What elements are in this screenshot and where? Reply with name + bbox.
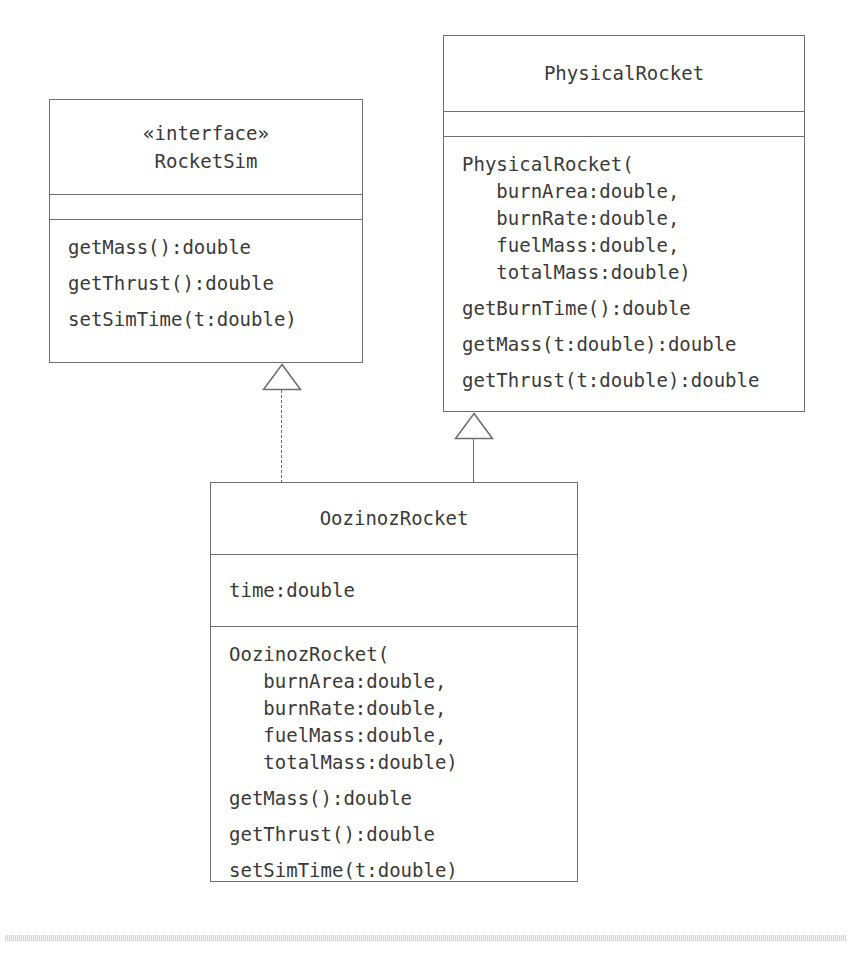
rocketsim-method: setSimTime(t:double)	[50, 306, 362, 333]
generalization-solid-line	[473, 438, 474, 483]
uml-class-diagram-canvas: «interface» RocketSim getMass():double g…	[0, 0, 852, 959]
class-box-physicalrocket[interactable]: PhysicalRocket PhysicalRocket( burnArea:…	[443, 35, 805, 412]
class-box-oozinozrocket[interactable]: OozinozRocket time:double OozinozRocket(…	[210, 482, 578, 882]
physicalrocket-methods-compartment: PhysicalRocket( burnArea:double, burnRat…	[444, 136, 804, 406]
realization-dashed-line	[281, 390, 282, 483]
physicalrocket-method: getThrust(t:double):double	[444, 367, 804, 394]
oozinozrocket-constructor: OozinozRocket( burnArea:double, burnRate…	[211, 641, 577, 776]
rocketsim-attributes-compartment	[50, 194, 362, 219]
hollow-triangle-arrowhead-realization	[262, 363, 302, 391]
rocketsim-method: getThrust():double	[50, 270, 362, 297]
hollow-triangle-arrowhead-generalization	[454, 412, 494, 440]
rocketsim-class-name: RocketSim	[155, 147, 258, 176]
oozinozrocket-title-compartment: OozinozRocket	[211, 483, 577, 554]
rocketsim-title-compartment: «interface» RocketSim	[50, 100, 362, 194]
physicalrocket-title-compartment: PhysicalRocket	[444, 36, 804, 111]
footer-divider-rule	[5, 935, 846, 941]
oozinozrocket-attribute: time:double	[211, 577, 577, 604]
class-box-rocketsim[interactable]: «interface» RocketSim getMass():double g…	[49, 99, 363, 363]
physicalrocket-attributes-compartment	[444, 111, 804, 136]
oozinozrocket-class-name: OozinozRocket	[320, 504, 469, 533]
oozinozrocket-attributes-compartment: time:double	[211, 554, 577, 626]
physicalrocket-class-name: PhysicalRocket	[544, 59, 704, 88]
oozinozrocket-method: setSimTime(t:double)	[211, 857, 577, 884]
oozinozrocket-method: getMass():double	[211, 785, 577, 812]
rocketsim-method: getMass():double	[50, 234, 362, 261]
rocketsim-stereotype: «interface»	[143, 119, 269, 148]
oozinozrocket-methods-compartment: OozinozRocket( burnArea:double, burnRate…	[211, 626, 577, 896]
physicalrocket-method: getBurnTime():double	[444, 295, 804, 322]
physicalrocket-constructor: PhysicalRocket( burnArea:double, burnRat…	[444, 151, 804, 286]
rocketsim-methods-compartment: getMass():double getThrust():double setS…	[50, 219, 362, 345]
physicalrocket-method: getMass(t:double):double	[444, 331, 804, 358]
oozinozrocket-method: getThrust():double	[211, 821, 577, 848]
